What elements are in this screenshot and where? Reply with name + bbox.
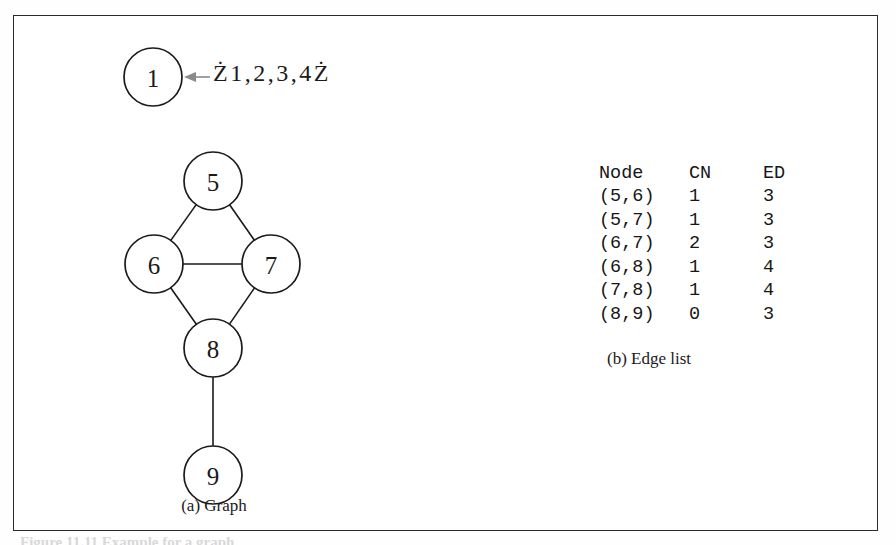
graph-node-5: 5 xyxy=(184,152,242,210)
cell-cn: 2 xyxy=(685,233,745,257)
cell-node: (5,7) xyxy=(599,209,685,233)
table-row: (6,8)14 xyxy=(599,256,813,280)
table-row: (5,6)13 xyxy=(599,186,813,210)
table-row: (6,7)23 xyxy=(599,233,813,257)
figure-page: 156789 Ż1,2,3,4Ż (a) Graph Node CN ED (5… xyxy=(0,0,896,545)
table-row: (8,9)03 xyxy=(599,303,813,327)
cell-ed: 4 xyxy=(745,280,813,304)
graph-node-6: 6 xyxy=(125,235,183,293)
arrow-group xyxy=(184,72,210,82)
graph-node-label-7: 7 xyxy=(265,252,278,279)
edge-list-panel: Node CN ED (5,6)13(5,7)13(6,7)23(6,8)14(… xyxy=(599,162,859,369)
graph-node-label-6: 6 xyxy=(148,252,161,279)
graph-node-1: 1 xyxy=(124,48,182,106)
cell-node: (5,6) xyxy=(599,186,685,210)
column-header-ed: ED xyxy=(745,162,813,186)
node-1-set-label: Ż1,2,3,4Ż xyxy=(213,60,331,87)
graph-node-label-9: 9 xyxy=(207,463,220,490)
graph-edge-5-6 xyxy=(171,205,196,241)
table-header-row: Node CN ED xyxy=(599,162,813,186)
graph-edge-6-8 xyxy=(171,288,197,325)
cell-cn: 1 xyxy=(685,256,745,280)
graph-node-label-8: 8 xyxy=(207,336,220,363)
table-row: (7,8)14 xyxy=(599,280,813,304)
cell-node: (8,9) xyxy=(599,303,685,327)
edge-list-table-body: (5,6)13(5,7)13(6,7)23(6,8)14(7,8)14(8,9)… xyxy=(599,186,813,327)
graph-node-label-1: 1 xyxy=(147,65,160,92)
cell-ed: 3 xyxy=(745,186,813,210)
node-1-pointer-arrow xyxy=(184,72,196,82)
figure-frame: 156789 Ż1,2,3,4Ż (a) Graph Node CN ED (5… xyxy=(13,15,878,531)
cell-node: (6,8) xyxy=(599,256,685,280)
graph-node-label-5: 5 xyxy=(207,169,220,196)
cell-node: (6,7) xyxy=(599,233,685,257)
column-header-cn: CN xyxy=(685,162,745,186)
graph-edge-7-8 xyxy=(229,288,254,324)
graph-panel-caption: (a) Graph xyxy=(14,496,414,516)
graph-edge-5-7 xyxy=(230,205,255,240)
cell-ed: 4 xyxy=(745,256,813,280)
cell-ed: 3 xyxy=(745,233,813,257)
cell-ed: 3 xyxy=(745,209,813,233)
figure-bottom-caption: Figure 11.11 Example for a graph xyxy=(20,534,234,545)
cell-node: (7,8) xyxy=(599,280,685,304)
cell-cn: 1 xyxy=(685,186,745,210)
graph-diagram: 156789 xyxy=(14,16,444,532)
cell-cn: 1 xyxy=(685,209,745,233)
graph-panel: 156789 Ż1,2,3,4Ż (a) Graph xyxy=(14,16,444,532)
column-header-node: Node xyxy=(599,162,685,186)
cell-cn: 0 xyxy=(685,303,745,327)
graph-node-8: 8 xyxy=(184,319,242,377)
cell-ed: 3 xyxy=(745,303,813,327)
graph-node-7: 7 xyxy=(242,235,300,293)
edge-list-panel-caption: (b) Edge list xyxy=(599,349,859,369)
cell-cn: 1 xyxy=(685,280,745,304)
node-group: 156789 xyxy=(124,48,300,504)
edge-list-table: Node CN ED (5,6)13(5,7)13(6,7)23(6,8)14(… xyxy=(599,162,813,327)
table-row: (5,7)13 xyxy=(599,209,813,233)
